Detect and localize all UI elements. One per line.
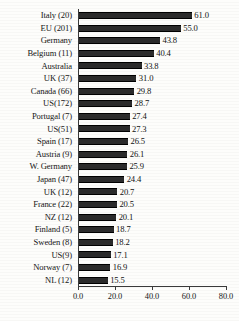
bar (79, 62, 142, 69)
bar (79, 163, 127, 170)
bar-value-label: 33.8 (144, 62, 158, 71)
bar (79, 226, 114, 233)
category-label: NL (12) (0, 273, 75, 286)
bar (79, 75, 136, 82)
bar-value-label: 20.7 (120, 188, 134, 197)
bar-value-label: 31.0 (139, 74, 153, 83)
category-label: Italy (20) (0, 9, 75, 22)
bar-value-label: 24.4 (127, 175, 141, 184)
bar-row: 15.5 (79, 273, 125, 286)
bar-value-label: 20.5 (119, 200, 133, 209)
bar-row: 61.0 (79, 9, 209, 22)
category-label-column: Italy (20)EU (201)GermanyBelgium (11)Aus… (0, 9, 75, 286)
bar-row: 20.5 (79, 198, 134, 211)
bar-value-label: 29.8 (137, 87, 151, 96)
category-label: US(172) (0, 97, 75, 110)
bar-row: 28.7 (79, 97, 149, 110)
category-label: France (22) (0, 198, 75, 211)
bar (79, 214, 116, 221)
axis-tick-mark (115, 286, 116, 290)
bar-value-label: 55.0 (183, 24, 197, 33)
bar (79, 125, 130, 132)
category-label: UK (37) (0, 72, 75, 85)
bar-row: 40.4 (79, 47, 171, 60)
bar-row: 33.8 (79, 59, 158, 72)
bar-row: 27.4 (79, 110, 147, 123)
axis-tick-label: 20.0 (108, 293, 122, 301)
bar-value-label: 27.4 (132, 112, 146, 121)
bar-row: 16.9 (79, 261, 127, 274)
bar-row: 20.7 (79, 185, 134, 198)
category-axis-line (78, 9, 79, 286)
axis-tick-label: 0.0 (73, 293, 83, 301)
bar-value-label: 25.9 (129, 162, 143, 171)
bar (79, 37, 160, 44)
bar-row: 18.2 (79, 236, 130, 249)
category-label: W. Germany (0, 160, 75, 173)
axis-tick-mark (78, 286, 79, 290)
bar (79, 100, 132, 107)
bar-value-label: 15.5 (110, 276, 124, 285)
bar-value-label: 61.0 (194, 11, 208, 20)
bar-row: 24.4 (79, 173, 141, 186)
bar (79, 176, 124, 183)
bar (79, 239, 113, 246)
axis-tick-label: 80.0 (219, 293, 233, 301)
axis-tick-label: 40.0 (145, 293, 159, 301)
axis-tick-label: 60.0 (182, 293, 196, 301)
bar-value-label: 18.2 (115, 238, 129, 247)
axis-tick-mark (189, 286, 190, 290)
bar-value-label: 43.8 (163, 36, 177, 45)
bar (79, 138, 128, 145)
category-label: Norway (7) (0, 261, 75, 274)
bar (79, 113, 130, 120)
bar (79, 151, 127, 158)
category-label: Finland (5) (0, 223, 75, 236)
category-label: Austria (9) (0, 148, 75, 161)
bar-row: 31.0 (79, 72, 153, 85)
bar-row: 18.7 (79, 223, 131, 236)
category-label: Canada (66) (0, 85, 75, 98)
bar-value-label: 28.7 (135, 99, 149, 108)
plot-area: 61.055.043.840.433.831.029.828.727.427.3… (78, 9, 226, 286)
bar-value-label: 26.1 (130, 150, 144, 159)
bar (79, 251, 111, 258)
bar-row: 26.5 (79, 135, 145, 148)
bar (79, 188, 117, 195)
bar-value-label: 18.7 (116, 225, 130, 234)
bar-chart: Italy (20)EU (201)GermanyBelgium (11)Aus… (0, 0, 239, 321)
bar-row: 20.1 (79, 210, 133, 223)
category-label: Spain (17) (0, 135, 75, 148)
bar-row: 27.3 (79, 122, 146, 135)
bar (79, 277, 108, 284)
category-label: UK (12) (0, 185, 75, 198)
bar (79, 50, 154, 57)
bar-value-label: 40.4 (156, 49, 170, 58)
bar-row: 26.1 (79, 148, 144, 161)
category-label: EU (201) (0, 22, 75, 35)
category-label: US(9) (0, 248, 75, 261)
bar (79, 88, 134, 95)
category-label: Sweden (8) (0, 236, 75, 249)
bar (79, 264, 110, 271)
bar-value-label: 26.5 (131, 137, 145, 146)
bar-row: 17.1 (79, 248, 128, 261)
bar-value-label: 16.9 (113, 263, 127, 272)
bar-row: 29.8 (79, 85, 151, 98)
category-label: NZ (12) (0, 210, 75, 223)
bar (79, 25, 181, 32)
bar-value-label: 17.1 (113, 251, 127, 260)
category-label: Germany (0, 34, 75, 47)
bar-value-label: 20.1 (119, 213, 133, 222)
category-label: Portugal (7) (0, 110, 75, 123)
category-label: Australia (0, 59, 75, 72)
bar-row: 25.9 (79, 160, 144, 173)
bar-row: 55.0 (79, 22, 198, 35)
bar (79, 12, 192, 19)
axis-tick-mark (226, 286, 227, 290)
category-label: Japan (47) (0, 173, 75, 186)
category-label: US(51) (0, 122, 75, 135)
bar (79, 201, 117, 208)
bar-row: 43.8 (79, 34, 177, 47)
category-label: Belgium (11) (0, 47, 75, 60)
